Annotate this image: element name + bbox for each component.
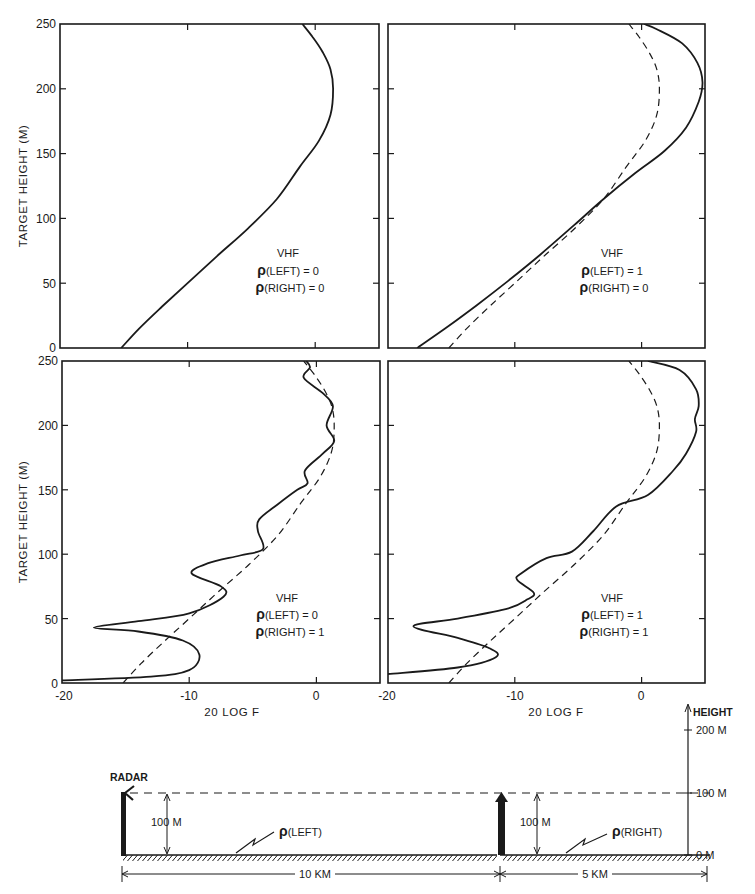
svg-text:ρ(RIGHT) = 0: ρ(RIGHT) = 0 <box>580 279 649 295</box>
svg-text:50: 50 <box>45 613 59 627</box>
height-scale-0: 0 M <box>696 849 714 861</box>
panel-top-right <box>388 24 705 348</box>
svg-text:ρ(LEFT) = 1: ρ(LEFT) = 1 <box>581 262 643 278</box>
radar-label: RADAR <box>110 771 148 783</box>
svg-text:ρ(RIGHT) = 1: ρ(RIGHT) = 1 <box>256 623 325 639</box>
left-height-label: 100 M <box>151 816 182 828</box>
rho-left-pointer-icon <box>236 832 274 853</box>
x-axis-title-left: 20 LOG F <box>204 706 259 718</box>
svg-text:ρ(LEFT) = 0: ρ(LEFT) = 0 <box>256 606 318 622</box>
solid-curve <box>417 24 702 348</box>
right-distance-label: 5 KM <box>582 868 608 880</box>
dashed-curve <box>449 24 660 348</box>
target-mast <box>498 801 505 855</box>
svg-text:150: 150 <box>36 147 56 161</box>
height-scale-200: 200 M <box>696 724 727 736</box>
svg-text:VHF: VHF <box>277 247 299 259</box>
y-axis-title-top: TARGET HEIGHT (M) <box>17 125 29 248</box>
y-tick-labels-bottom: 250 200 150 100 50 0 <box>38 354 58 691</box>
svg-text:ρ(RIGHT) = 1: ρ(RIGHT) = 1 <box>580 623 649 639</box>
plot-frame <box>388 24 705 348</box>
rho-right-pointer-icon <box>566 834 607 853</box>
svg-text:200: 200 <box>36 82 56 96</box>
svg-text:250: 250 <box>36 17 56 31</box>
svg-text:VHF: VHF <box>601 247 623 259</box>
svg-text:100: 100 <box>36 212 56 226</box>
geometry-diagram: RADAR 100 M 100 M ρ(LEFT) ρ(RIGHT) 10 KM… <box>110 704 733 882</box>
svg-text:250: 250 <box>38 354 58 368</box>
svg-text:0: 0 <box>638 689 645 703</box>
right-height-label: 100 M <box>520 816 551 828</box>
solid-curve <box>388 361 699 674</box>
svg-text:-20: -20 <box>55 689 73 703</box>
annotation-top-right: VHF ρ(LEFT) = 1 ρ(RIGHT) = 0 <box>580 247 649 295</box>
svg-text:100: 100 <box>38 548 58 562</box>
svg-text:200: 200 <box>38 419 58 433</box>
svg-text:-10: -10 <box>506 689 524 703</box>
solid-curve <box>121 24 333 348</box>
panel-bottom-left <box>62 361 380 683</box>
svg-text:-10: -10 <box>180 689 198 703</box>
rho-left-label: ρ(LEFT) <box>279 823 322 839</box>
svg-text:-20: -20 <box>378 689 396 703</box>
height-scale-title: HEIGHT <box>693 706 733 718</box>
svg-text:ρ(LEFT) = 1: ρ(LEFT) = 1 <box>581 606 643 622</box>
svg-text:0: 0 <box>49 341 56 355</box>
svg-text:50: 50 <box>43 277 57 291</box>
left-distance-label: 10 KM <box>299 868 331 880</box>
annotation-top-left: VHF ρ(LEFT) = 0 ρ(RIGHT) = 0 <box>256 247 325 295</box>
plot-frame <box>388 361 705 683</box>
annotation-bottom-right: VHF ρ(LEFT) = 1 ρ(RIGHT) = 1 <box>580 592 649 639</box>
y-axis-title-bottom: TARGET HEIGHT (M) <box>17 461 29 584</box>
panel-top-left <box>60 24 379 348</box>
ground-left-hatch <box>123 855 497 861</box>
svg-text:0: 0 <box>313 689 320 703</box>
svg-text:VHF: VHF <box>276 592 298 604</box>
ground-right-hatch <box>503 855 710 861</box>
figure: TARGET HEIGHT (M) TARGET HEIGHT (M) 250 … <box>0 0 755 894</box>
annotation-bottom-left: VHF ρ(LEFT) = 0 ρ(RIGHT) = 1 <box>256 592 325 639</box>
panel-bottom-right <box>388 361 705 683</box>
svg-text:ρ(RIGHT) = 0: ρ(RIGHT) = 0 <box>256 279 325 295</box>
svg-text:150: 150 <box>38 484 58 498</box>
radar-mast <box>121 792 126 856</box>
height-scale-100: 100 M <box>696 787 727 799</box>
x-tick-labels-left: -20 -10 0 <box>55 689 319 703</box>
rho-right-label: ρ(RIGHT) <box>612 823 662 839</box>
y-tick-labels-top: 250 200 150 100 50 0 <box>36 17 56 355</box>
svg-text:VHF: VHF <box>601 592 623 604</box>
x-axis-title-right: 20 LOG F <box>528 706 583 718</box>
x-tick-labels-right: -20 -10 0 <box>378 689 644 703</box>
svg-text:ρ(LEFT) = 0: ρ(LEFT) = 0 <box>257 262 319 278</box>
